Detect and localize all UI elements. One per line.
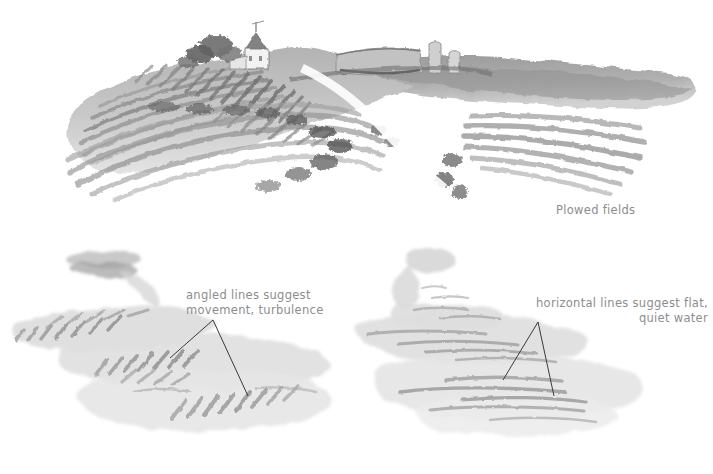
furrows-right	[464, 116, 644, 195]
farmhouse	[230, 21, 268, 69]
turbulent-water-study	[10, 240, 340, 440]
plowed-fields-study	[40, 10, 700, 210]
distant-water-wisp	[66, 250, 160, 308]
water-wash-foreground-right	[416, 394, 619, 436]
watercolor-reference-page: Plowed fields	[0, 0, 713, 474]
turbulent-water-annotation: angled lines suggest movement, turbulenc…	[186, 288, 324, 318]
quiet-water-artwork	[330, 240, 660, 440]
quiet-water-annotation: horizontal lines suggest flat, quiet wat…	[536, 296, 708, 326]
plowed-fields-artwork	[40, 10, 700, 210]
turbulent-water-artwork	[10, 240, 340, 440]
plowed-fields-caption: Plowed fields	[556, 203, 635, 218]
quiet-water-study	[330, 240, 660, 440]
